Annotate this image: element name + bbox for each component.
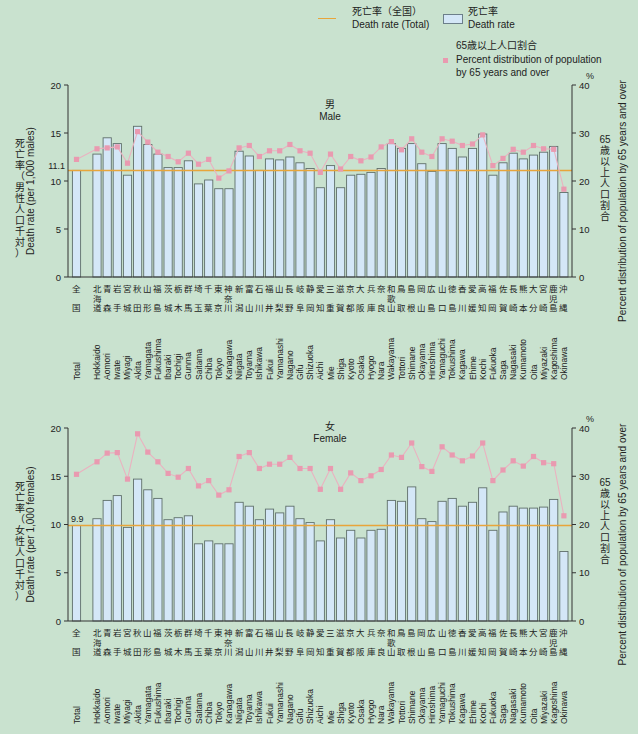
bar-tokushima xyxy=(448,148,456,277)
elderly-percent-marker xyxy=(318,487,323,492)
bar-okayama xyxy=(418,164,426,277)
elderly-percent-marker xyxy=(490,478,495,483)
category-jp: 阜 xyxy=(296,303,305,313)
elderly-percent-marker xyxy=(440,136,445,141)
category-jp: 川 xyxy=(458,303,467,313)
category-jp: 島 xyxy=(153,647,162,657)
category-jp: 崎 xyxy=(509,647,518,657)
elderly-percent-marker xyxy=(196,162,201,167)
category-jp: 宮 xyxy=(123,284,132,294)
bar-yamanashi xyxy=(276,160,284,277)
category-jp: 千 xyxy=(204,628,213,638)
category-jp: 岐 xyxy=(296,628,305,638)
bar-niigata xyxy=(235,502,243,621)
category-jp: 道 xyxy=(93,647,102,657)
category-en: Wakayama xyxy=(386,682,396,724)
bar-shizuoka xyxy=(306,169,314,278)
category-jp: 井 xyxy=(265,647,274,657)
chart-title-jp: 女 xyxy=(325,420,335,432)
category-jp: 山 xyxy=(438,284,447,294)
bar-gunma xyxy=(184,161,192,277)
chart-title-jp: 男 xyxy=(325,99,335,110)
category-jp: 京 xyxy=(214,647,223,657)
bar-saga xyxy=(499,163,507,277)
category-jp: 石 xyxy=(255,628,264,638)
bar-ehime xyxy=(468,148,476,277)
bar-shiga xyxy=(337,538,345,621)
category-jp: 城 xyxy=(164,647,173,657)
left-tick-label: 0 xyxy=(56,272,61,283)
category-jp: 京 xyxy=(214,303,223,313)
category-en: Aichi xyxy=(315,361,325,380)
elderly-percent-marker xyxy=(490,163,495,168)
category-jp: 川 xyxy=(255,647,264,657)
category-jp: 賀 xyxy=(336,303,345,313)
elderly-percent-marker xyxy=(155,150,160,155)
category-jp: 城 xyxy=(123,303,132,313)
elderly-percent-marker xyxy=(247,450,252,455)
bar-yamanashi xyxy=(276,513,284,621)
left-tick-label: 5 xyxy=(56,224,61,235)
category-jp: 鹿 xyxy=(549,284,558,294)
category-en: Kagawa xyxy=(457,349,467,380)
elderly-percent-marker xyxy=(429,154,434,159)
category-jp: 岡 xyxy=(417,628,426,638)
bar-chiba xyxy=(205,541,213,621)
bar-wakayama xyxy=(387,500,395,621)
category-en: Tochigi xyxy=(173,353,183,380)
category-jp: 分 xyxy=(529,647,538,657)
right-title-jp-char: 割 xyxy=(600,542,610,554)
category-en: Miyazaki xyxy=(539,347,549,380)
category-en: Okinawa xyxy=(559,347,569,380)
bar-okinawa xyxy=(560,552,568,622)
bar-kagoshima xyxy=(550,499,558,621)
elderly-percent-marker xyxy=(460,458,465,463)
right-title-jp-char: 65 xyxy=(599,134,611,145)
category-en: Kanagawa xyxy=(224,340,234,380)
category-jp: 富 xyxy=(245,628,254,638)
left-title-jp-char: ） xyxy=(15,591,25,602)
elderly-percent-marker xyxy=(338,166,343,171)
category-en: Tochigi xyxy=(173,697,183,724)
bar-hokkaido xyxy=(93,519,101,621)
elderly-percent-marker xyxy=(216,176,221,181)
category-en: Shimane xyxy=(407,690,417,724)
category-jp: 田 xyxy=(133,303,142,313)
category-jp: 山 xyxy=(275,628,284,638)
bars xyxy=(72,126,568,277)
category-en: Miyagi xyxy=(122,355,132,380)
category-jp: 宮 xyxy=(123,628,132,638)
category-en: Niigata xyxy=(234,353,244,380)
bar-chiba xyxy=(205,180,213,277)
category-jp: 埼 xyxy=(194,628,203,638)
elderly-percent-marker xyxy=(145,140,150,145)
bar-hiroshima xyxy=(428,171,436,277)
category-jp: 岐 xyxy=(296,284,305,294)
left-title-jp-char: 対 xyxy=(15,579,25,591)
category-jp: 佐 xyxy=(499,284,508,294)
category-jp: 海 xyxy=(93,638,102,648)
left-title-jp-char: 率 xyxy=(15,159,25,171)
category-en: Kyoto xyxy=(346,358,356,380)
category-jp: 崎 xyxy=(539,647,548,657)
elderly-percent-marker xyxy=(308,151,313,156)
category-jp: 重 xyxy=(326,303,335,313)
category-en: Kumamoto xyxy=(518,339,528,380)
elderly-percent-marker xyxy=(186,151,191,156)
elderly-percent-marker xyxy=(166,471,171,476)
category-en: Yamanashi xyxy=(275,338,285,380)
category-jp: 根 xyxy=(407,303,416,313)
elderly-percent-marker xyxy=(226,487,231,492)
category-en: Ishikawa xyxy=(254,347,264,380)
category-en: Saga xyxy=(498,360,508,380)
bar-nagasaki xyxy=(509,506,517,621)
category-en: Miyazaki xyxy=(539,691,549,724)
category-jp: 福 xyxy=(488,284,497,294)
category-en: Tokyo xyxy=(214,702,224,724)
category-jp: 埼 xyxy=(194,284,203,294)
elderly-percent-marker xyxy=(105,145,110,150)
category-jp: 山 xyxy=(387,303,396,313)
category-jp: 愛 xyxy=(468,284,477,294)
bar-yamaguchi xyxy=(438,144,446,277)
category-jp: 庫 xyxy=(367,647,376,657)
